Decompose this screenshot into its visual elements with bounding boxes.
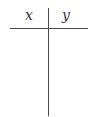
t-chart: x y <box>0 0 93 117</box>
column-header-x: x <box>25 8 33 22</box>
header-divider-line <box>10 28 88 29</box>
column-divider-line <box>48 8 49 116</box>
column-header-y: y <box>62 8 70 22</box>
